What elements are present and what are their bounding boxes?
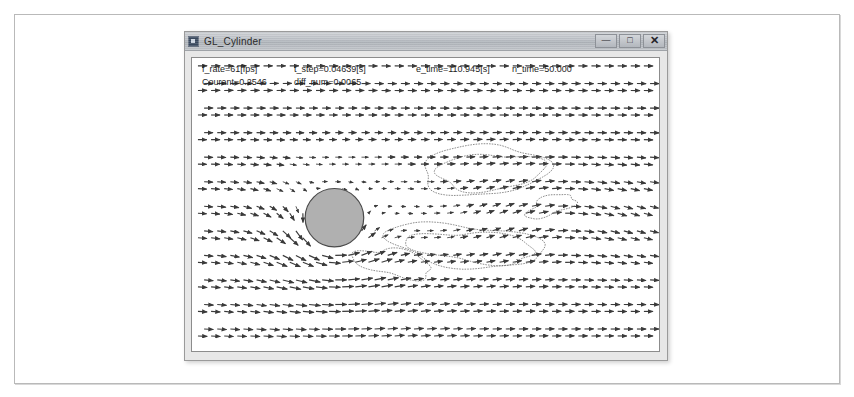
velocity-vector xyxy=(388,252,397,255)
velocity-vector xyxy=(375,251,386,255)
velocity-vector xyxy=(296,329,306,330)
velocity-vector xyxy=(650,231,659,233)
velocity-vector xyxy=(487,187,495,189)
velocity-vector xyxy=(637,182,646,184)
velocity-vector xyxy=(375,328,385,329)
velocity-vector xyxy=(519,279,528,280)
cylinder-body xyxy=(305,189,364,247)
velocity-vector xyxy=(257,206,265,209)
window-controls: — □ ✕ xyxy=(595,34,665,48)
velocity-vector xyxy=(257,255,266,258)
velocity-vector xyxy=(466,204,473,206)
velocity-vector xyxy=(611,280,620,281)
velocity-vector xyxy=(637,157,646,158)
velocity-vector xyxy=(466,254,474,256)
velocity-vector xyxy=(198,287,207,288)
velocity-vector xyxy=(296,255,306,260)
velocity-vector xyxy=(591,213,601,215)
velocity-vector xyxy=(500,235,508,238)
velocity-vector xyxy=(257,182,265,184)
velocity-vector xyxy=(264,213,272,217)
velocity-vector xyxy=(250,213,258,216)
velocity-vector xyxy=(480,304,489,305)
velocity-vector xyxy=(447,261,455,262)
velocity-vector xyxy=(650,157,659,158)
velocity-vector xyxy=(532,279,541,280)
velocity-vector xyxy=(309,304,320,305)
velocity-vector xyxy=(382,310,393,311)
velocity-vector xyxy=(224,189,232,190)
velocity-vector xyxy=(421,286,431,287)
velocity-vector xyxy=(375,303,386,304)
velocity-vector xyxy=(264,189,271,191)
velocity-vector xyxy=(250,238,259,241)
velocity-vector xyxy=(637,231,646,233)
velocity-vector xyxy=(460,212,467,214)
velocity-vector xyxy=(230,182,238,183)
velocity-vector xyxy=(283,304,294,305)
velocity-vector xyxy=(224,238,233,239)
velocity-vector xyxy=(395,335,405,336)
velocity-vector xyxy=(277,189,283,192)
velocity-vector xyxy=(447,286,456,287)
velocity-vector xyxy=(473,286,482,287)
velocity-vector xyxy=(611,255,620,256)
velocity-vector xyxy=(250,189,258,191)
velocity-vector xyxy=(277,164,284,165)
velocity-vector xyxy=(395,310,405,311)
velocity-vector xyxy=(644,262,653,263)
velocity-vector xyxy=(388,328,398,329)
velocity-vector xyxy=(230,231,239,233)
velocity-vector xyxy=(637,280,646,281)
velocity-vector xyxy=(243,304,253,305)
velocity-vector xyxy=(296,157,303,158)
velocity-vector xyxy=(348,182,353,183)
velocity-vector xyxy=(296,231,303,240)
velocity-vector xyxy=(584,255,593,256)
close-button[interactable]: ✕ xyxy=(643,34,665,48)
velocity-vector xyxy=(500,210,508,213)
velocity-vector xyxy=(250,336,260,337)
velocity-vector xyxy=(250,287,260,289)
velocity-vector xyxy=(264,336,274,337)
velocity-vector xyxy=(519,180,528,182)
window-title-bar[interactable]: GL_Cylinder — □ ✕ xyxy=(185,32,667,51)
velocity-vector xyxy=(631,238,640,240)
velocity-vector xyxy=(283,255,293,260)
velocity-vector xyxy=(382,285,393,287)
velocity-vector xyxy=(447,212,453,213)
velocity-vector xyxy=(611,182,620,184)
velocity-vector xyxy=(395,260,405,262)
velocity-vector xyxy=(382,259,393,262)
velocity-vector xyxy=(500,286,509,287)
velocity-vector xyxy=(283,157,290,158)
flow-field-svg xyxy=(192,58,659,351)
velocity-vector xyxy=(211,238,220,239)
velocity-vector xyxy=(506,228,514,231)
maximize-button[interactable]: □ xyxy=(619,34,641,48)
velocity-vector xyxy=(296,182,301,184)
velocity-vector xyxy=(480,254,488,256)
velocity-vector xyxy=(257,231,265,235)
velocity-vector xyxy=(440,230,447,231)
velocity-vector xyxy=(375,278,386,280)
velocity-vector xyxy=(526,286,535,287)
velocity-vector xyxy=(473,236,481,238)
velocity-vector xyxy=(283,206,288,211)
velocity-vector xyxy=(487,210,495,213)
velocity-vector xyxy=(401,230,407,231)
velocity-vector xyxy=(618,164,627,165)
gl-canvas-container[interactable]: f_rate=61[fps] t_step=0.04639[s] e_time=… xyxy=(191,57,660,352)
velocity-vector xyxy=(204,304,213,305)
velocity-vector xyxy=(493,204,501,207)
minimize-button[interactable]: — xyxy=(595,34,617,48)
velocity-vector xyxy=(217,231,226,232)
velocity-vector xyxy=(290,238,298,246)
velocity-vector xyxy=(545,254,554,255)
velocity-vector xyxy=(316,311,327,312)
velocity-vector xyxy=(539,261,548,262)
velocity-vector xyxy=(296,206,299,213)
velocity-vector xyxy=(644,164,653,165)
velocity-vector xyxy=(460,261,468,262)
velocity-vector xyxy=(526,261,535,262)
